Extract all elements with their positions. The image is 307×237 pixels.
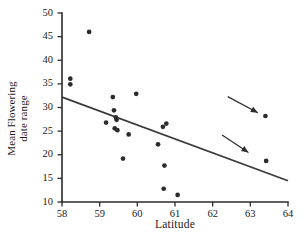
x-tick-label: 59 <box>88 209 112 220</box>
data-point <box>161 186 166 191</box>
arrow-lower-outlier-head <box>241 146 248 152</box>
x-axis-title: Latitude <box>62 218 288 230</box>
data-point <box>162 163 167 168</box>
y-tick-label: 50 <box>29 8 53 19</box>
y-tick-label: 40 <box>29 55 53 66</box>
y-tick-label: 15 <box>29 173 53 184</box>
x-tick-label: 58 <box>50 209 74 220</box>
data-points <box>68 30 269 198</box>
y-tick-label: 35 <box>29 78 53 89</box>
x-tick-label: 63 <box>238 209 262 220</box>
y-tick-label: 30 <box>29 102 53 113</box>
x-tick-label: 60 <box>125 209 149 220</box>
y-tick-label: 20 <box>29 149 53 160</box>
data-point <box>156 142 161 147</box>
data-point <box>134 91 139 96</box>
data-point <box>115 128 120 133</box>
y-tick-label: 45 <box>29 31 53 42</box>
data-point <box>68 76 73 81</box>
axis-lines <box>62 13 288 202</box>
y-tick-label: 25 <box>29 126 53 137</box>
x-tick-label: 64 <box>276 209 300 220</box>
data-point <box>111 95 116 100</box>
data-point <box>121 156 126 161</box>
data-point <box>264 159 269 164</box>
data-point <box>126 132 131 137</box>
x-tick-label: 62 <box>201 209 225 220</box>
scatter-plot-figure: Mean Flowering date range Latitude 10152… <box>0 0 307 237</box>
data-point <box>87 30 92 35</box>
data-point <box>112 108 117 113</box>
data-point <box>68 82 73 87</box>
data-point <box>104 120 109 125</box>
data-point <box>114 117 119 122</box>
data-point <box>164 121 169 126</box>
data-point <box>161 125 166 130</box>
y-tick-label: 10 <box>29 197 53 208</box>
x-tick-label: 61 <box>163 209 187 220</box>
annotation-arrows <box>222 97 258 153</box>
data-point <box>175 193 180 198</box>
data-point <box>263 114 268 119</box>
